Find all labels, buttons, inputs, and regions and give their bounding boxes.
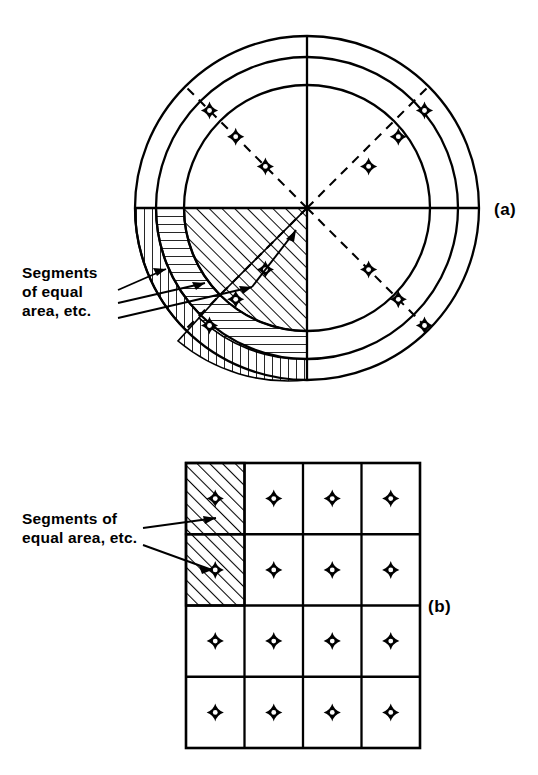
grid-marker-r0c2 xyxy=(324,490,341,508)
panel-b-label: (b) xyxy=(428,597,451,616)
panel-b-callout-line2: equal area, etc. xyxy=(22,529,137,546)
grid-marker-r1c1 xyxy=(265,561,282,579)
dashed-radial-135 xyxy=(185,86,307,208)
panel-b-callout-line1: Segments of xyxy=(22,510,118,527)
panel-a-callout-line3: area, etc. xyxy=(22,302,91,319)
grid-marker-r2c3 xyxy=(382,632,399,650)
figure-root: Segments of equal area, etc. (a) xyxy=(0,0,538,775)
grid-marker-r3c0 xyxy=(207,703,224,721)
panel-a: Segments of equal area, etc. (a) xyxy=(22,36,516,381)
panel-a-callout-line1: Segments xyxy=(22,264,98,281)
marker-outer-315 xyxy=(416,317,433,335)
grid-marker-r3c2 xyxy=(324,703,341,721)
marker-inner-45 xyxy=(360,157,377,175)
grid-marker-r2c2 xyxy=(324,632,341,650)
dashed-radial-45 xyxy=(307,86,429,208)
panel-b: Segments of equal area, etc. (b) xyxy=(22,463,451,748)
grid-marker-r0c3 xyxy=(382,490,399,508)
technical-figure: Segments of equal area, etc. (a) xyxy=(0,0,538,775)
grid-marker-r3c3 xyxy=(382,703,399,721)
grid-marker-r2c1 xyxy=(265,632,282,650)
grid-marker-r1c3 xyxy=(382,561,399,579)
marker-outer-45 xyxy=(416,102,433,120)
marker-inner-315 xyxy=(360,261,377,279)
marker-middle-45 xyxy=(390,128,407,146)
marker-middle-135 xyxy=(227,128,244,146)
grid-marker-r3c1 xyxy=(265,703,282,721)
grid-marker-r1c2 xyxy=(324,561,341,579)
panel-a-label: (a) xyxy=(494,200,516,219)
panel-a-callout-line2: of equal xyxy=(22,283,83,300)
grid-marker-r0c1 xyxy=(265,490,282,508)
grid-marker-r2c0 xyxy=(207,632,224,650)
